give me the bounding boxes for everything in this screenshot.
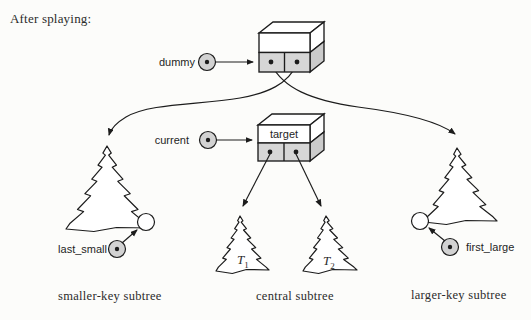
- last-small-node-circle: [138, 214, 155, 231]
- first-large-pointer-label: first_large: [466, 242, 514, 253]
- target-right-child-arrow: [296, 154, 321, 206]
- last-small-pointer-label: last_small: [40, 244, 107, 255]
- splay-tree-figure: After splaying: dummy current target las…: [0, 0, 531, 320]
- first-large-pointer-arrow: [429, 228, 445, 241]
- target-left-child-arrow: [243, 154, 270, 206]
- dummy-pointer-handle: [199, 54, 216, 71]
- target-right-cell-dot: [294, 150, 299, 155]
- larger-key-subtree-shape: [424, 148, 497, 225]
- last-small-pointer-handle: [109, 241, 126, 258]
- central-subtree-caption: central subtree: [256, 290, 334, 303]
- target-node-label: target: [258, 129, 310, 140]
- figure-title: After splaying:: [10, 12, 91, 25]
- smaller-key-subtree-caption: smaller-key subtree: [58, 290, 162, 303]
- current-pointer-handle: [200, 132, 217, 149]
- smaller-key-subtree-shape: [66, 146, 150, 232]
- current-pointer-label: current: [128, 135, 189, 146]
- first-large-node-circle: [412, 213, 429, 230]
- target-left-cell-dot: [268, 150, 273, 155]
- subtree-t1-label: T1: [237, 253, 249, 270]
- dummy-right-cell-dot: [295, 60, 300, 65]
- first-large-pointer-handle: [442, 239, 459, 256]
- diagram-canvas: [0, 0, 531, 320]
- dummy-node-box: [259, 22, 324, 72]
- last-small-pointer-arrow: [122, 230, 137, 243]
- dummy-left-cell-dot: [269, 60, 274, 65]
- larger-key-subtree-caption: larger-key subtree: [411, 289, 507, 302]
- dummy-pointer-label: dummy: [128, 57, 195, 68]
- subtree-t2-label: T2: [323, 254, 335, 271]
